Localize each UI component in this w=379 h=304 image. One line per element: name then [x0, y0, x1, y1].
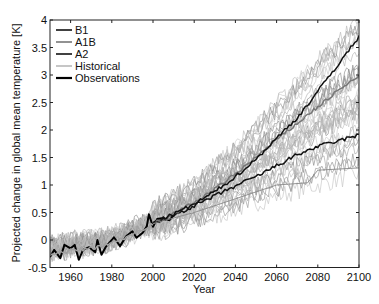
legend: B1A1BA2HistoricalObservations [56, 24, 140, 84]
y-tick-label: 1 [41, 179, 47, 191]
ensemble-run-line [50, 95, 359, 255]
legend-label: A2 [75, 48, 88, 60]
legend-label: B1 [75, 24, 88, 36]
y-tick-label: -0.5 [28, 262, 47, 274]
x-tick-label: 2000 [141, 271, 165, 283]
legend-item-b1: B1 [56, 24, 88, 36]
legend-label: Historical [75, 60, 120, 72]
x-tick-label: 2040 [223, 271, 247, 283]
legend-item-historical: Historical [56, 60, 120, 72]
temperature-projection-chart: 19601980200020202040206020802100 -0.500.… [0, 0, 379, 304]
y-tick-label: 0.5 [32, 207, 47, 219]
y-tick-label: 4 [41, 14, 47, 26]
x-tick-label: 2080 [306, 271, 330, 283]
y-tick-label: 0 [41, 234, 47, 246]
ensemble-run-line [50, 95, 359, 256]
model-ensemble-lines [50, 17, 359, 262]
legend-label: A1B [75, 36, 96, 48]
x-tick-label: 1980 [100, 271, 124, 283]
legend-item-observations: Observations [56, 72, 140, 84]
x-tick-label: 2020 [182, 271, 206, 283]
x-tick-label: 2100 [347, 271, 371, 283]
y-axis-title: Projected change in global mean temperat… [10, 23, 22, 262]
x-tick-label: 1960 [58, 271, 82, 283]
y-tick-label: 2 [41, 124, 47, 136]
y-tick-label: 3.5 [32, 42, 47, 54]
y-tick-label: 2.5 [32, 97, 47, 109]
x-axis-title: Year [193, 283, 216, 295]
y-tick-label: 1.5 [32, 152, 47, 164]
legend-item-a1b: A1B [56, 36, 96, 48]
x-tick-label: 2060 [264, 271, 288, 283]
legend-label: Observations [75, 72, 140, 84]
legend-item-a2: A2 [56, 48, 88, 60]
y-tick-label: 3 [41, 69, 47, 81]
